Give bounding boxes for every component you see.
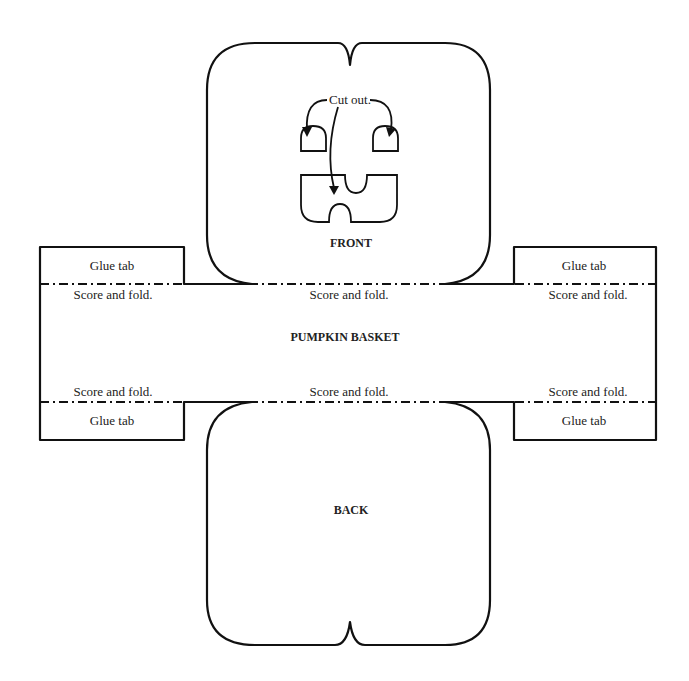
fold-label-bottom-left: Score and fold. <box>73 384 152 399</box>
back-label: BACK <box>334 503 369 517</box>
front-label: FRONT <box>330 236 372 250</box>
fold-label-top-center: Score and fold. <box>309 287 388 302</box>
cut-out-label: Cut out. <box>329 92 371 107</box>
cut-out-arrows <box>302 100 396 195</box>
pumpkin-basket-template: Cut out. FRONT BACK PUMPKIN BASKET Glue … <box>0 0 689 681</box>
mouth-cutout <box>301 175 397 222</box>
glue-tab-top-left: Glue tab <box>90 258 134 273</box>
fold-label-top-right: Score and fold. <box>548 287 627 302</box>
glue-tab-bottom-right: Glue tab <box>562 413 606 428</box>
back-piece-outline <box>207 402 490 645</box>
fold-label-bottom-right: Score and fold. <box>548 384 627 399</box>
band-right-outline <box>445 247 656 440</box>
fold-label-bottom-center: Score and fold. <box>309 384 388 399</box>
band-left-outline <box>40 247 252 440</box>
glue-tab-bottom-left: Glue tab <box>90 413 134 428</box>
basket-title: PUMPKIN BASKET <box>290 330 399 344</box>
fold-label-top-left: Score and fold. <box>73 287 152 302</box>
glue-tab-top-right: Glue tab <box>562 258 606 273</box>
